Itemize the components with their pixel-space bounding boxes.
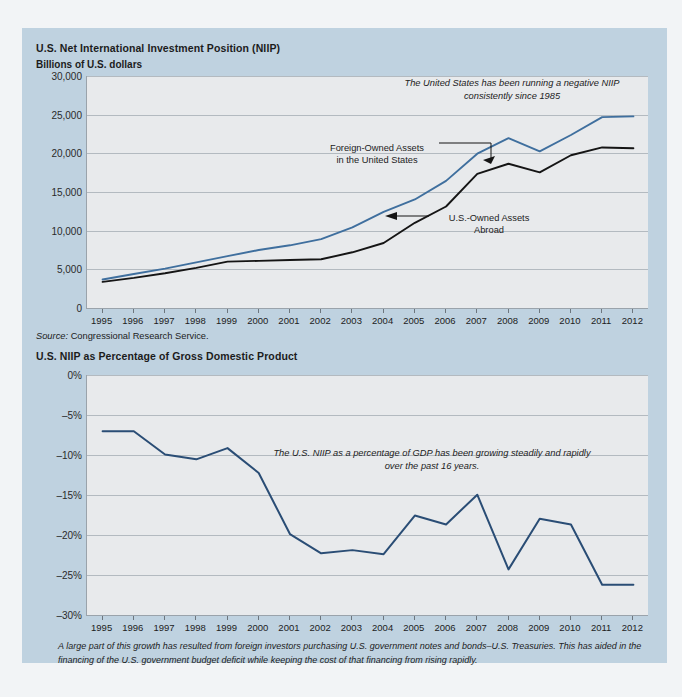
x-tick-label: 2002 <box>310 622 331 633</box>
x-tick-label: 2006 <box>434 315 455 326</box>
x-tick-label: 1996 <box>122 315 143 326</box>
x-tick <box>133 616 134 620</box>
x-tick <box>601 309 602 313</box>
x-tick-label: 2007 <box>466 315 487 326</box>
y-tick-label: 10,000 <box>51 225 82 236</box>
x-tick-label: 2007 <box>466 622 487 633</box>
x-tick <box>445 616 446 620</box>
x-tick <box>351 616 352 620</box>
x-tick-label: 2000 <box>247 622 268 633</box>
series-label-foreign-owned-assets: Foreign-Owned Assets in the United State… <box>311 142 443 166</box>
x-tick-label: 1997 <box>153 622 174 633</box>
series-label-line-2: in the United States <box>336 155 417 165</box>
chart-1-plot-area: The United States has been running a neg… <box>86 76 648 309</box>
series-label-line-2: Abroad <box>474 225 504 235</box>
x-tick-label: 2009 <box>528 315 549 326</box>
series-label-us-owned-assets: U.S.-Owned Assets Abroad <box>429 212 549 236</box>
x-tick-label: 2011 <box>591 622 611 633</box>
x-tick-label: 2004 <box>372 315 393 326</box>
x-tick <box>320 616 321 620</box>
chart-1-lines <box>87 76 649 309</box>
x-tick <box>508 309 509 313</box>
x-tick <box>195 309 196 313</box>
y-tick-label: 20,000 <box>51 148 82 159</box>
x-tick-label: 2004 <box>372 622 393 633</box>
chart-2-lines <box>87 375 649 616</box>
x-tick <box>320 309 321 313</box>
x-tick-label: 2003 <box>341 315 362 326</box>
x-tick <box>414 616 415 620</box>
x-tick <box>414 309 415 313</box>
x-tick-label: 2012 <box>622 622 643 633</box>
x-tick <box>289 309 290 313</box>
x-tick <box>632 616 633 620</box>
x-tick <box>258 616 259 620</box>
x-tick <box>570 309 571 313</box>
chart-1-panel: U.S. Net International Investment Positi… <box>22 28 667 328</box>
y-tick-label: 5,000 <box>57 264 82 275</box>
chart-1-x-axis: 1995199619971998199920002001200220032004… <box>86 309 648 331</box>
x-tick <box>539 309 540 313</box>
x-tick <box>508 616 509 620</box>
x-tick-label: 1999 <box>216 622 237 633</box>
x-tick-label: 2001 <box>278 622 299 633</box>
x-tick <box>227 616 228 620</box>
x-tick-label: 2001 <box>278 315 299 326</box>
y-tick-label: –25% <box>56 570 82 581</box>
x-tick <box>102 309 103 313</box>
y-tick-label: 30,000 <box>51 71 82 82</box>
chart-2-x-axis: 1995199619971998199920002001200220032004… <box>86 616 648 638</box>
y-tick-label: 0% <box>68 370 82 381</box>
x-tick <box>164 616 165 620</box>
chart-1-title: U.S. Net International Investment Positi… <box>36 42 280 54</box>
chart-1-y-axis: 30,000 25,000 20,000 15,000 10,000 5,000… <box>26 76 82 308</box>
x-tick-label: 2006 <box>434 622 455 633</box>
x-tick <box>570 616 571 620</box>
x-tick-label: 1999 <box>216 315 237 326</box>
x-tick <box>476 616 477 620</box>
chart-1-subtitle: Billions of U.S. dollars <box>36 59 142 70</box>
x-tick <box>445 309 446 313</box>
x-tick <box>601 616 602 620</box>
x-tick-label: 2012 <box>622 315 643 326</box>
x-tick-label: 2008 <box>497 622 518 633</box>
chart-2-panel: U.S. NIIP as Percentage of Gross Domesti… <box>22 350 667 640</box>
x-tick-label: 2009 <box>528 622 549 633</box>
x-tick <box>258 309 259 313</box>
x-tick-label: 2000 <box>247 315 268 326</box>
x-tick-label: 2005 <box>403 315 424 326</box>
x-tick <box>383 616 384 620</box>
x-tick <box>632 309 633 313</box>
leader-arrow-us-owned <box>383 210 433 226</box>
x-tick <box>539 616 540 620</box>
chart-2-plot-area: The U.S. NIIP as a percentage of GDP has… <box>86 375 648 616</box>
source-value: Congressional Research Service. <box>71 331 209 341</box>
source-label: Source: <box>36 331 68 341</box>
x-tick <box>383 309 384 313</box>
x-tick <box>133 309 134 313</box>
x-tick-label: 2008 <box>497 315 518 326</box>
leader-arrow-foreign-owned <box>439 140 509 174</box>
x-tick-label: 2003 <box>341 622 362 633</box>
x-tick <box>164 309 165 313</box>
y-tick-label: –20% <box>56 530 82 541</box>
chart-2-title: U.S. NIIP as Percentage of Gross Domesti… <box>36 350 297 362</box>
x-tick-label: 2011 <box>591 315 611 326</box>
chart-2-y-axis: 0% –5% –10% –15% –20% –25% –30% <box>26 375 82 615</box>
x-tick-label: 1995 <box>91 622 112 633</box>
x-tick <box>476 309 477 313</box>
y-tick-label: –30% <box>56 610 82 621</box>
chart-1-annotation: The United States has been running a neg… <box>397 77 627 102</box>
x-tick <box>102 616 103 620</box>
x-tick-label: 2010 <box>559 315 580 326</box>
x-tick-label: 1995 <box>91 315 112 326</box>
y-tick-label: –15% <box>56 490 82 501</box>
figure-page: U.S. Net International Investment Positi… <box>22 28 667 663</box>
y-tick-label: –5% <box>62 410 82 421</box>
x-tick <box>227 309 228 313</box>
x-tick-label: 1998 <box>185 622 206 633</box>
x-tick-label: 1997 <box>153 315 174 326</box>
x-tick-label: 1996 <box>122 622 143 633</box>
x-tick <box>351 309 352 313</box>
chart-1-source: Source: Congressional Research Service. <box>36 331 209 341</box>
